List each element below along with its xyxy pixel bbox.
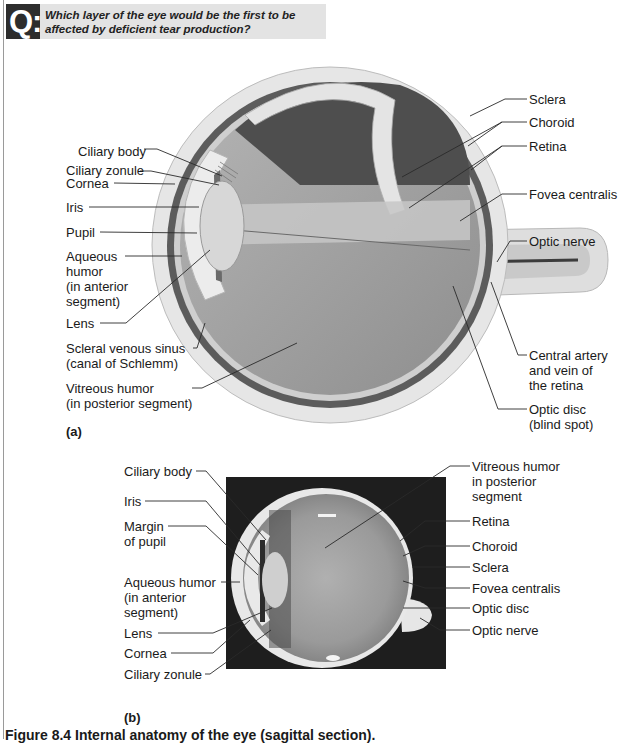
label-b-iris: Iris (124, 494, 141, 509)
label-b-cornea: Cornea (124, 646, 167, 661)
label-a-pupil: Pupil (66, 225, 95, 240)
label-a-optic-nerve: Optic nerve (529, 234, 595, 249)
label-b-ciliary-zonule: Ciliary zonule (124, 667, 202, 682)
label-b-vitreous-humor: Vitreous humor in posterior segment (472, 459, 560, 504)
label-a-central-artery-vein: Central artery and vein of the retina (529, 348, 608, 393)
label-a-optic-disc: Optic disc (blind spot) (529, 402, 593, 432)
label-b-fovea-centralis: Fovea centralis (472, 581, 560, 596)
eye-photograph-b (226, 477, 446, 669)
label-a-retina: Retina (529, 139, 567, 154)
label-b-choroid: Choroid (472, 539, 518, 554)
label-b-margin-of-pupil: Margin of pupil (124, 519, 166, 549)
label-a-scleral-venous-sinus: Scleral venous sinus (canal of Schlemm) (66, 341, 185, 371)
label-a-aqueous-humor: Aqueous humor (in anterior segment) (66, 249, 128, 309)
label-a-lens: Lens (66, 316, 94, 331)
panel-label-b: (b) (124, 710, 141, 725)
label-b-optic-nerve: Optic nerve (472, 623, 538, 638)
label-a-ciliary-body: Ciliary body (78, 144, 146, 159)
label-a-vitreous-humor: Vitreous humor (in posterior segment) (66, 381, 192, 411)
label-b-aqueous-humor: Aqueous humor (in anterior segment) (124, 575, 216, 620)
figure-caption: Figure 8.4 Internal anatomy of the eye (… (5, 727, 375, 743)
panel-label-a: (a) (66, 424, 82, 439)
label-a-choroid: Choroid (529, 115, 575, 130)
label-a-fovea-centralis: Fovea centralis (529, 187, 617, 202)
label-b-retina: Retina (472, 514, 510, 529)
label-b-optic-disc: Optic disc (472, 601, 529, 616)
label-b-ciliary-body: Ciliary body (124, 464, 192, 479)
label-b-sclera: Sclera (472, 560, 509, 575)
label-b-lens: Lens (124, 626, 152, 641)
label-a-iris: Iris (66, 200, 83, 215)
label-a-cornea: Cornea (66, 176, 109, 191)
label-a-sclera: Sclera (529, 92, 566, 107)
